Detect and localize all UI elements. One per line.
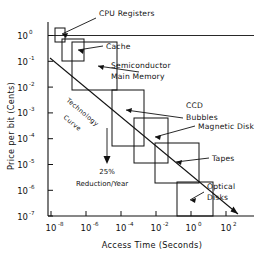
x-tick-label: 10 (81, 223, 92, 233)
y-axis-tick-labels: 10 0 10 -1 10 -2 10 -3 10 -4 10 -5 10 -6… (17, 29, 35, 222)
x-tick-exponent: -6 (93, 221, 99, 227)
region-label-optical-disks-line1: Optical (207, 182, 235, 191)
region-label-cache: Cache (106, 42, 131, 51)
annotation-arrowheads (62, 33, 196, 203)
y-tick-label: 10 (17, 160, 28, 170)
y-axis-title: Price per bit (Cents) (6, 82, 16, 170)
y-tick-exponent: -5 (29, 158, 35, 164)
x-axis-title: Access Time (Seconds) (102, 240, 202, 250)
x-tick-exponent: 0 (198, 221, 202, 227)
technology-curve-label: Technology Curve (62, 96, 101, 133)
y-tick-exponent: -7 (29, 210, 35, 216)
reduction-rate-annotation: 25% Reduction/Year (76, 128, 128, 188)
y-tick-label: 10 (17, 31, 28, 41)
x-axis-tick-labels: 10 -8 10 -6 10 -4 10 -2 10 0 10 2 (46, 221, 237, 233)
reduction-rate-value: 25% (99, 168, 115, 176)
memory-hierarchy-chart: 10 0 10 -1 10 -2 10 -3 10 -4 10 -5 10 -6… (0, 0, 262, 260)
x-tick-label: 10 (116, 223, 127, 233)
x-tick-exponent: 2 (233, 221, 237, 227)
region-label-ccd-bubbles-line2: Bubbles (186, 113, 218, 122)
x-tick-exponent: -8 (58, 221, 64, 227)
region-label-tapes: Tapes (211, 154, 234, 163)
chart-svg: 10 0 10 -1 10 -2 10 -3 10 -4 10 -5 10 -6… (0, 0, 262, 260)
region-label-semiconductor-main-memory-line1: Semiconductor (111, 61, 171, 70)
x-tick-exponent: -2 (163, 221, 169, 227)
x-tick-label: 10 (221, 223, 232, 233)
y-axis-ticks (48, 36, 53, 217)
region-label-semiconductor-main-memory-line2: Main Memory (111, 72, 165, 81)
region-label-cpu-registers: CPU Registers (99, 9, 155, 18)
technology-curve-label-line2: Curve (62, 113, 83, 133)
y-tick-exponent: -4 (29, 132, 35, 138)
y-tick-label: 10 (17, 83, 28, 93)
x-tick-label: 10 (186, 223, 197, 233)
y-tick-exponent: -1 (29, 55, 35, 61)
y-tick-label: 10 (17, 108, 28, 118)
region-label-magnetic-disk: Magnetic Disk (198, 122, 254, 131)
region-label-ccd-bubbles-line1: CCD (186, 101, 203, 110)
y-tick-label: 10 (17, 57, 28, 67)
y-tick-exponent: 0 (29, 29, 33, 35)
y-tick-label: 10 (17, 212, 28, 222)
region-label-optical-disks-line2: Disks (207, 193, 228, 202)
x-tick-label: 10 (151, 223, 162, 233)
x-tick-exponent: -4 (128, 221, 134, 227)
y-tick-label: 10 (17, 186, 28, 196)
y-tick-exponent: -2 (29, 81, 35, 87)
x-axis-ticks (51, 211, 226, 216)
x-tick-label: 10 (46, 223, 57, 233)
region-box-magnetic-disk (134, 118, 168, 163)
y-tick-label: 10 (17, 134, 28, 144)
reduction-rate-unit: Reduction/Year (76, 180, 128, 188)
y-tick-exponent: -6 (29, 184, 35, 190)
y-tick-exponent: -3 (29, 106, 35, 112)
